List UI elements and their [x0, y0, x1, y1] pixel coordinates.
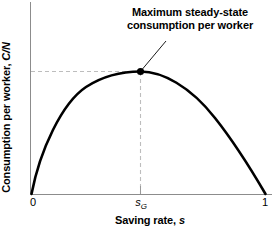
x-axis-title-text: Saving rate, [115, 214, 179, 226]
consumption-curve [32, 72, 266, 195]
x-tick-label-sg: sG [128, 196, 154, 212]
callout-line-2: consumption per worker [110, 19, 270, 32]
maximum-consumption-callout: Maximum steady-state consumption per wor… [110, 6, 270, 32]
callout-leader-line [143, 41, 167, 69]
x-tick-sg-subscript: G [141, 202, 147, 211]
peak-point-marker [137, 68, 144, 75]
chart-figure: Maximum steady-state consumption per wor… [0, 0, 278, 235]
y-axis-title-symbol: C/N [0, 42, 12, 61]
callout-line-1: Maximum steady-state [110, 6, 270, 19]
y-axis-title: Consumption per worker, C/N [0, 0, 28, 235]
x-axis-title-symbol: s [179, 214, 185, 226]
x-axis-title: Saving rate, s [60, 214, 240, 227]
x-tick-label-1: 1 [258, 196, 272, 209]
x-tick-label-0: 0 [26, 196, 40, 209]
y-axis-title-text: Consumption per worker, [0, 61, 12, 193]
